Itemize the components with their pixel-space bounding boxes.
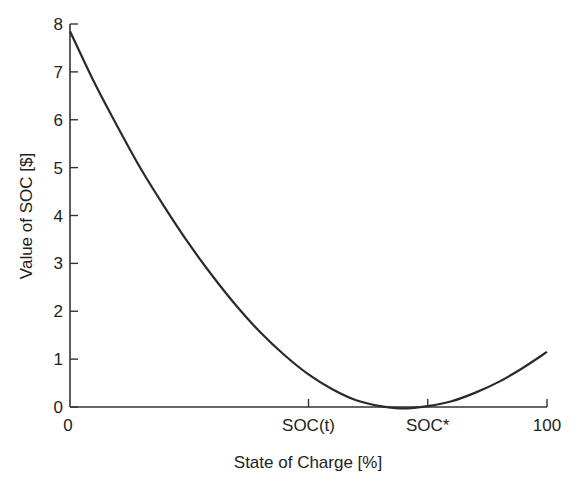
y-tick-label: 8 — [54, 15, 63, 34]
x-axis-ticks: 0SOC(t)SOC*100 — [63, 399, 561, 435]
chart-canvas: 012345678 0SOC(t)SOC*100 State of Charge… — [0, 0, 578, 484]
x-tick-label: SOC(t) — [282, 416, 335, 435]
y-tick-label: 2 — [54, 302, 63, 321]
y-tick-label: 5 — [54, 159, 63, 178]
value-curve — [70, 31, 547, 408]
y-tick-label: 7 — [54, 63, 63, 82]
x-tick-label: SOC* — [406, 416, 450, 435]
y-axis-ticks: 012345678 — [54, 15, 78, 417]
axes — [70, 24, 547, 407]
y-tick-label: 3 — [54, 254, 63, 273]
x-tick-label: 100 — [533, 416, 561, 435]
y-tick-label: 0 — [54, 398, 63, 417]
y-tick-label: 1 — [54, 350, 63, 369]
y-axis-label: Value of SOC [$] — [17, 153, 36, 279]
y-tick-label: 6 — [54, 111, 63, 130]
x-tick-label: 0 — [63, 416, 72, 435]
x-axis-label: State of Charge [%] — [234, 453, 382, 472]
y-tick-label: 4 — [54, 207, 63, 226]
